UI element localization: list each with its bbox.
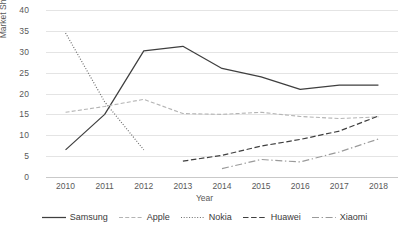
x-axis-tick-label: 2018 <box>356 181 400 191</box>
y-axis-title: Market Share (%) <box>0 0 8 50</box>
legend-swatch-nokia <box>181 213 205 222</box>
y-axis-tick-label: 15 <box>5 110 29 119</box>
legend-label: Huawei <box>271 213 301 222</box>
legend-swatch-samsung <box>42 213 66 222</box>
legend-label: Xiaomi <box>340 213 368 222</box>
series-line-nokia <box>66 33 144 150</box>
x-axis-tick-label: 2015 <box>239 181 283 191</box>
x-axis-title: Year <box>0 193 409 203</box>
legend-item-apple[interactable]: Apple <box>119 213 170 222</box>
y-axis-tick-label: 20 <box>5 90 29 99</box>
legend-label: Samsung <box>70 213 108 222</box>
legend-label: Apple <box>147 213 170 222</box>
x-axis-tick-label: 2016 <box>278 181 322 191</box>
series-line-xiaomi <box>222 139 378 169</box>
y-axis-tick-label: 25 <box>5 69 29 78</box>
x-axis-tick-label: 2017 <box>317 181 361 191</box>
x-axis-tick-label: 2014 <box>200 181 244 191</box>
x-axis-tick-label: 2010 <box>44 181 88 191</box>
legend-item-nokia[interactable]: Nokia <box>181 213 232 222</box>
market-share-line-chart: 0510152025303540 Market Share (%) 201020… <box>0 0 409 237</box>
y-axis-tick-label: 0 <box>5 173 29 182</box>
x-axis-tick-label: 2011 <box>83 181 127 191</box>
y-axis-tick-label: 5 <box>5 152 29 161</box>
legend-item-huawei[interactable]: Huawei <box>243 213 301 222</box>
series-line-huawei <box>183 116 379 161</box>
x-axis-tick-labels: 201020112012201320142015201620172018 <box>46 181 398 193</box>
series-line-samsung <box>66 46 379 150</box>
x-axis-line <box>46 177 398 178</box>
legend-item-samsung[interactable]: Samsung <box>42 213 108 222</box>
legend-label: Nokia <box>209 213 232 222</box>
plot-area: 0510152025303540 <box>46 10 398 177</box>
y-axis-tick-label: 30 <box>5 48 29 57</box>
legend-swatch-huawei <box>243 213 267 222</box>
y-axis-tick-label: 35 <box>5 27 29 36</box>
chart-legend: SamsungAppleNokiaHuaweiXiaomi <box>0 213 409 222</box>
y-axis-tick-label: 10 <box>5 131 29 140</box>
legend-swatch-xiaomi <box>312 213 336 222</box>
legend-item-xiaomi[interactable]: Xiaomi <box>312 213 368 222</box>
series-lines <box>46 10 398 177</box>
legend-swatch-apple <box>119 213 143 222</box>
y-axis-tick-label: 40 <box>5 6 29 15</box>
x-axis-tick-label: 2012 <box>122 181 166 191</box>
x-axis-tick-label: 2013 <box>161 181 205 191</box>
